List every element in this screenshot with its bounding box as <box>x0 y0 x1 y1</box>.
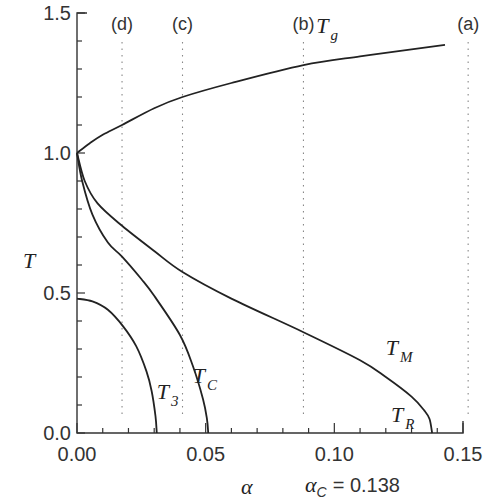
curve-t-c <box>77 153 208 433</box>
axis-frame <box>77 13 463 433</box>
curve-t-m <box>77 153 432 433</box>
vertical-marker-lines <box>122 42 468 419</box>
x-tick-label: 0.05 <box>186 443 225 465</box>
x-tick-label: 0.00 <box>58 443 97 465</box>
phase-diagram: 0.00.51.01.50.000.050.100.15 (a)(b)(c)(d… <box>0 0 488 499</box>
label-t-c: TC <box>193 363 218 393</box>
y-tick-label: 0.5 <box>43 282 71 304</box>
x-tick-label: 0.15 <box>444 443 483 465</box>
marker-label-d: (d) <box>111 14 133 34</box>
marker-label-a: (a) <box>457 14 479 34</box>
y-tick-label: 1.0 <box>43 142 71 164</box>
y-tick-label: 1.5 <box>43 2 71 24</box>
y-tick-label: 0.0 <box>43 422 71 444</box>
label-t-r: TR <box>391 402 414 432</box>
marker-label-c: (c) <box>172 14 193 34</box>
y-axis-label: T <box>23 248 37 273</box>
x-tick-label: 0.10 <box>315 443 354 465</box>
axes <box>77 13 463 433</box>
label-t-m: TM <box>386 335 414 365</box>
marker-label-b: (b) <box>292 14 314 34</box>
vertical-marker-labels: (a)(b)(c)(d) <box>111 14 479 34</box>
tick-marks <box>77 13 463 433</box>
alpha-c-subscript: C <box>317 484 328 499</box>
curves <box>77 45 445 433</box>
label-t-g: Tg <box>316 13 338 43</box>
curve-t-g <box>77 45 445 153</box>
label-t-3: T3 <box>157 379 179 409</box>
tick-labels: 0.00.51.01.50.000.050.100.15 <box>43 2 482 465</box>
alpha-c-symbol: α <box>305 472 317 497</box>
curve-t-3 <box>77 299 157 433</box>
x-axis-label: α <box>241 474 253 499</box>
alpha-c-annotation: αC= 0.138 <box>305 472 400 499</box>
alpha-c-value: = 0.138 <box>333 474 400 496</box>
